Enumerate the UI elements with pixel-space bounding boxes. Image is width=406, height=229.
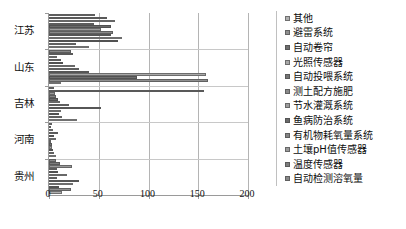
gridline-200: [248, 13, 249, 195]
bar: [49, 76, 137, 78]
legend-swatch-icon: [285, 176, 290, 181]
bar: [49, 71, 89, 73]
x-axis-label-50: 50: [83, 188, 113, 199]
bar: [49, 87, 54, 89]
group-separator: [49, 49, 248, 50]
bar: [49, 129, 53, 131]
bar: [49, 140, 51, 142]
x-axis-label-100: 100: [133, 188, 163, 199]
y-axis-label-1: 山东: [2, 62, 46, 73]
legend-swatch-icon: [285, 60, 290, 65]
legend-swatch-icon: [285, 89, 290, 94]
legend-item-0[interactable]: 其他: [285, 11, 404, 26]
bar: [49, 68, 79, 70]
gridline-100: [149, 13, 150, 195]
legend-swatch-icon: [285, 30, 290, 35]
plot-area: [48, 13, 248, 196]
y-axis-label-3: 河南: [2, 134, 46, 145]
legend-swatch-icon: [285, 16, 290, 21]
legend-item-7[interactable]: 鱼病防治系统: [285, 113, 404, 128]
legend-item-11[interactable]: 自动检测溶氧量: [285, 172, 404, 187]
legend-item-8[interactable]: 有机物耗氧量系统: [285, 128, 404, 143]
legend-swatch-icon: [285, 103, 290, 108]
legend-swatch-icon: [285, 133, 290, 138]
bar: [49, 119, 77, 121]
bar: [49, 79, 208, 81]
legend-swatch-icon: [285, 147, 290, 152]
bar: [49, 183, 73, 185]
bar: [49, 31, 113, 33]
group-separator: [49, 122, 248, 123]
bar: [49, 138, 56, 140]
bar: [49, 171, 58, 173]
bar: [49, 180, 79, 182]
bar: [49, 104, 69, 106]
bar: [49, 37, 122, 39]
bar: [49, 14, 95, 16]
bar: [49, 168, 57, 170]
bar: [49, 116, 62, 118]
legend-label: 测土配方施肥: [293, 86, 353, 97]
legend-label: 其他: [293, 13, 313, 24]
legend-label: 自动卷帘: [293, 42, 333, 53]
bar: [49, 43, 76, 45]
legend-swatch-icon: [285, 45, 290, 50]
bar: [49, 65, 75, 67]
legend-item-3[interactable]: 光照传感器: [285, 55, 404, 70]
bar: [49, 132, 58, 134]
legend-item-5[interactable]: 测土配方施肥: [285, 84, 404, 99]
legend-swatch-icon: [285, 162, 290, 167]
chart-legend: 其他避雷系统自动卷帘光照传感器自动投喂系统测土配方施肥节水灌溉系统鱼病防治系统有…: [276, 11, 404, 186]
legend-label: 自动检测溶氧量: [293, 173, 363, 184]
bar: [49, 135, 54, 137]
x-axis-label-200: 200: [232, 188, 262, 199]
legend-label: 鱼病防治系统: [293, 115, 353, 126]
legend-label: 有机物耗氧量系统: [293, 130, 373, 141]
legend-label: 光照传感器: [293, 57, 343, 68]
legend-item-6[interactable]: 节水灌溉系统: [285, 99, 404, 114]
bar: [49, 123, 52, 125]
bar: [49, 82, 61, 84]
legend-item-9[interactable]: 土壤pH值传感器: [285, 142, 404, 157]
bar: [49, 95, 56, 97]
bar: [49, 40, 118, 42]
bar: [49, 73, 206, 75]
bar: [49, 25, 111, 27]
legend-item-2[interactable]: 自动卷帘: [285, 40, 404, 55]
bar: [49, 90, 204, 92]
bar: [49, 152, 54, 154]
bar-chart: 其他避雷系统自动卷帘光照传感器自动投喂系统测土配方施肥节水灌溉系统鱼病防治系统有…: [0, 0, 406, 229]
bar: [49, 59, 61, 61]
bar: [49, 174, 67, 176]
bar: [49, 92, 55, 94]
bar: [49, 28, 101, 30]
bar: [49, 46, 89, 48]
group-separator: [49, 159, 248, 160]
bar: [49, 155, 56, 157]
bar: [49, 53, 73, 55]
bar: [49, 56, 57, 58]
bar: [49, 110, 61, 112]
legend-item-10[interactable]: 温度传感器: [285, 157, 404, 172]
gridline-150: [198, 13, 199, 195]
bar: [49, 162, 60, 164]
legend-item-4[interactable]: 自动投喂系统: [285, 69, 404, 84]
legend-item-1[interactable]: 避雷系统: [285, 26, 404, 41]
bar: [49, 126, 51, 128]
bar: [49, 159, 56, 161]
bar: [49, 149, 53, 151]
bar: [49, 146, 52, 148]
y-axis-label-4: 贵州: [2, 171, 46, 182]
bar: [49, 17, 107, 19]
bar: [49, 107, 101, 109]
legend-label: 自动投喂系统: [293, 71, 353, 82]
legend-swatch-icon: [285, 74, 290, 79]
x-axis-label-0: 0: [33, 188, 63, 199]
bar: [49, 113, 59, 115]
bar: [49, 165, 72, 167]
bar: [49, 177, 57, 179]
bar: [49, 23, 94, 25]
y-axis-label-0: 江苏: [2, 25, 46, 36]
group-separator: [49, 86, 248, 87]
x-axis-label-150: 150: [182, 188, 212, 199]
